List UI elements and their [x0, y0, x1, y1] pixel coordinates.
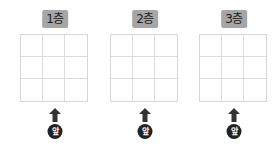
arrow-up-icon: [49, 108, 61, 122]
front-badge: 앞: [227, 124, 242, 139]
floor-label: 2층: [132, 10, 158, 28]
grid-cell: [244, 79, 266, 101]
grid-cell: [65, 79, 87, 101]
grid-cell: [43, 57, 65, 79]
grid-cell: [21, 79, 43, 101]
grid-cell: [43, 79, 65, 101]
grid-cell: [222, 79, 244, 101]
grid-cell: [133, 35, 155, 57]
floor-3: 3층 앞: [199, 0, 269, 157]
grid-cell: [111, 35, 133, 57]
grid-cell: [21, 57, 43, 79]
grid-cell: [200, 57, 222, 79]
grid-cell: [222, 35, 244, 57]
grid-cell: [244, 57, 266, 79]
grid-cell: [200, 35, 222, 57]
grid-cell: [21, 35, 43, 57]
grid-cell: [155, 79, 177, 101]
floor-label: 1층: [42, 10, 68, 28]
grid-cell: [155, 57, 177, 79]
floor-label: 3층: [221, 10, 247, 28]
grid-cell: [111, 79, 133, 101]
floor-grid: [20, 34, 88, 102]
front-badge: 앞: [138, 124, 153, 139]
grid-cell: [200, 79, 222, 101]
grid-cell: [222, 57, 244, 79]
grid-cell: [111, 57, 133, 79]
grid-cell: [155, 35, 177, 57]
front-badge: 앞: [48, 124, 63, 139]
grid-cell: [244, 35, 266, 57]
floor-1: 1층 앞: [20, 0, 90, 157]
grid-cell: [133, 57, 155, 79]
arrow-up-icon: [139, 108, 151, 122]
grid-cell: [65, 57, 87, 79]
arrow-up-icon: [228, 108, 240, 122]
floor-grid: [199, 34, 267, 102]
floor-2: 2층 앞: [110, 0, 180, 157]
grid-cell: [133, 79, 155, 101]
grid-cell: [43, 35, 65, 57]
grid-cell: [65, 35, 87, 57]
floor-grid: [110, 34, 178, 102]
